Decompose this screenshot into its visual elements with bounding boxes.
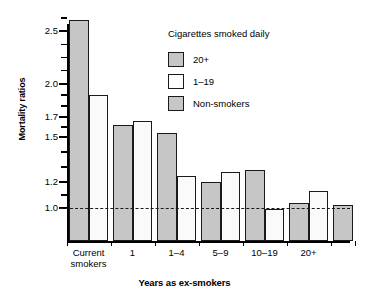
x-axis-line <box>67 241 350 243</box>
bar <box>113 125 133 241</box>
legend-item: 20+ <box>168 48 348 70</box>
y-axis-tick-label: 1.0 <box>18 203 58 213</box>
legend-title: Cigarettes smoked daily <box>168 28 348 39</box>
x-axis-tick <box>331 241 332 246</box>
y-axis-tick-label: 1.5 <box>18 132 58 142</box>
bar <box>309 191 329 241</box>
y-axis-minor-tick <box>61 194 67 195</box>
x-axis-tick <box>243 241 244 246</box>
x-axis-tick <box>155 241 156 246</box>
y-axis-minor-tick <box>61 151 67 152</box>
y-axis-tick <box>59 83 67 85</box>
bar <box>177 176 197 241</box>
y-axis-tick <box>59 30 67 32</box>
x-axis-title: Years as ex-smokers <box>0 277 369 288</box>
y-axis-minor-tick <box>61 57 67 58</box>
y-axis-title: Mortality ratios <box>17 49 27 169</box>
legend-item: Non-smokers <box>168 92 348 114</box>
bar <box>221 172 241 242</box>
y-axis-minor-tick <box>61 94 67 95</box>
legend-item: 1–19 <box>168 70 348 92</box>
y-axis-tick-label: 2.5 <box>18 26 58 36</box>
legend-swatch <box>168 74 184 89</box>
legend-item-label: Non-smokers <box>193 98 250 109</box>
legend-item-label: 20+ <box>193 54 209 65</box>
y-axis-tick-label: 2.0 <box>18 79 58 89</box>
bar <box>157 133 177 241</box>
y-axis-minor-tick <box>61 70 67 71</box>
legend-items: 20+1–19Non-smokers <box>168 48 348 114</box>
legend-item-label: 1–19 <box>193 76 214 87</box>
bar <box>201 182 221 241</box>
x-axis-tick-label: 20+ <box>273 247 345 258</box>
legend: Cigarettes smoked daily 20+1–19Non-smoke… <box>168 28 348 114</box>
y-axis-tick <box>59 116 67 118</box>
bar <box>265 209 285 241</box>
y-axis-minor-tick <box>61 17 67 18</box>
x-axis-tick <box>355 241 356 246</box>
bar <box>245 170 265 241</box>
x-axis-tick <box>111 241 112 246</box>
x-axis-tick <box>67 241 68 246</box>
x-axis-tick <box>287 241 288 246</box>
x-axis-tick <box>199 241 200 246</box>
y-axis-minor-tick <box>61 126 67 127</box>
y-axis-minor-tick <box>61 105 67 106</box>
bar <box>289 203 309 241</box>
y-axis-tick <box>59 136 67 138</box>
bar <box>333 205 353 241</box>
y-axis-tick-label: 1.2 <box>18 177 58 187</box>
mortality-ratio-bar-chart: Mortality ratios 1.01.21.51.72.02.5 Curr… <box>0 0 369 301</box>
legend-swatch <box>168 96 184 111</box>
y-axis-minor-tick <box>61 44 67 45</box>
y-axis-tick <box>59 181 67 183</box>
y-axis-minor-tick <box>61 166 67 167</box>
bar <box>89 95 109 241</box>
legend-swatch <box>168 52 184 67</box>
bar <box>133 121 153 241</box>
reference-line-1.0 <box>60 208 350 209</box>
y-axis-tick-label: 1.7 <box>18 112 58 122</box>
